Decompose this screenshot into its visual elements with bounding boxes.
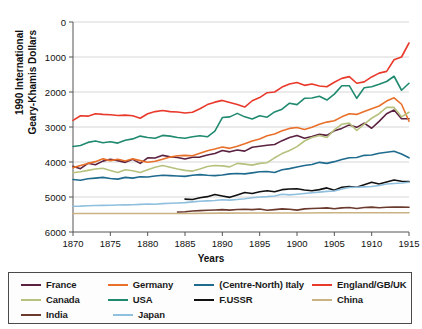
x-tick-label: 1890 — [212, 238, 233, 249]
x-tick-label: 1875 — [100, 238, 121, 249]
series-line-usa — [73, 76, 409, 146]
series-line-england-gb-uk — [73, 43, 409, 120]
x-tick-label: 1870 — [62, 238, 83, 249]
y-tick-label: 0 — [61, 17, 66, 28]
legend-item-france[interactable]: France — [21, 277, 108, 292]
y-axis-label-line2: Geary-Khamis Dollars — [27, 30, 38, 135]
y-axis-label: 1990 International — [14, 30, 25, 115]
legend-label-france: France — [46, 279, 77, 290]
series-line-canada — [73, 107, 409, 172]
legend-label-china: China — [337, 294, 363, 305]
series-line-centre-north-italy — [73, 151, 409, 180]
x-axis-label-text: Years — [198, 253, 225, 264]
series-line-f-ussr — [185, 180, 409, 200]
y-tick-label: 3000 — [45, 122, 66, 133]
legend-label-india: India — [46, 309, 68, 320]
x-tick-label: 1905 — [324, 238, 345, 249]
legend-swatch-france — [21, 284, 41, 286]
y-tick-label: 4000 — [45, 157, 66, 168]
legend-item-usa[interactable]: USA — [108, 292, 195, 307]
x-tick-label: 1915 — [398, 238, 419, 249]
y-tick-label: 5000 — [45, 192, 66, 203]
legend-item-india[interactable]: India — [21, 307, 113, 322]
x-tick-label: 1900 — [286, 238, 307, 249]
y-axis-label-line1: 1990 International — [14, 30, 25, 115]
legend-item-italy[interactable]: (Centre-North) Italy — [194, 277, 312, 292]
legend-item-japan[interactable]: Japan — [113, 307, 205, 322]
legend-item-canada[interactable]: Canada — [21, 292, 108, 307]
legend-label-usa: USA — [133, 294, 153, 305]
y-tick-label: 2000 — [45, 87, 66, 98]
series-line-india — [178, 207, 409, 212]
legend-swatch-canada — [21, 299, 41, 301]
legend-label-fussr: F.USSR — [219, 294, 252, 305]
legend-item-england[interactable]: England/GB/UK — [312, 277, 411, 292]
legend-swatch-china — [312, 299, 332, 301]
x-tick-label: 1885 — [174, 238, 195, 249]
x-axis-label: Years — [0, 253, 422, 264]
x-tick-label: 1895 — [249, 238, 270, 249]
legend-label-japan: Japan — [138, 309, 165, 320]
legend-label-italy: (Centre-North) Italy — [219, 279, 304, 290]
legend-row-3: India Japan — [9, 307, 411, 322]
legend-swatch-india — [21, 314, 41, 316]
chart-figure: 6000500040003000200010000187018751880188… — [0, 0, 422, 329]
legend-item-china[interactable]: China — [312, 292, 411, 307]
chart-plot-area: 6000500040003000200010000187018751880188… — [0, 0, 422, 270]
x-tick-label: 1880 — [137, 238, 158, 249]
legend-swatch-italy — [194, 284, 214, 286]
y-tick-label: 6000 — [45, 227, 66, 238]
legend-label-england: England/GB/UK — [337, 279, 406, 290]
legend-row-1: France Germany (Centre-North) Italy Engl… — [9, 277, 411, 292]
legend-swatch-germany — [108, 284, 128, 286]
legend-item-germany[interactable]: Germany — [108, 277, 195, 292]
legend-swatch-fussr — [194, 299, 214, 301]
line-chart-svg: 6000500040003000200010000187018751880188… — [0, 0, 422, 270]
legend-swatch-england — [312, 284, 332, 286]
legend-swatch-usa — [108, 299, 128, 301]
legend-item-fussr[interactable]: F.USSR — [194, 292, 312, 307]
legend-label-germany: Germany — [133, 279, 174, 290]
legend-row-2: Canada USA F.USSR China — [9, 292, 411, 307]
chart-legend: France Germany (Centre-North) Italy Engl… — [8, 272, 412, 324]
y-axis-label-2: Geary-Khamis Dollars — [27, 30, 38, 135]
series-line-china — [73, 213, 409, 214]
legend-swatch-japan — [113, 314, 133, 316]
x-tick-label: 1910 — [361, 238, 382, 249]
y-tick-label: 1000 — [45, 52, 66, 63]
legend-label-canada: Canada — [46, 294, 80, 305]
